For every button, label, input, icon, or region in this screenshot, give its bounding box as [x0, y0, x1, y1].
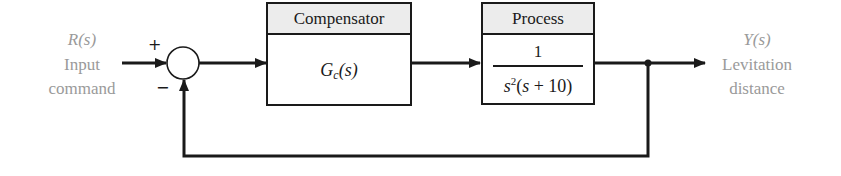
process-fraction: 1 s2(s + 10) [483, 39, 593, 100]
den-s: s [504, 76, 511, 96]
process-transfer-function: 1 s2(s + 10) [483, 35, 593, 103]
compensator-transfer-function: Gc(s) [268, 35, 410, 110]
process-numerator: 1 [483, 39, 593, 65]
input-symbol: R(s) [22, 28, 142, 53]
output-label-line1: Levitation [704, 53, 810, 78]
input-label-line2: command [22, 77, 142, 102]
minus-sign: − [156, 78, 169, 97]
output-label-line2: distance [704, 77, 810, 102]
output-symbol: Y(s) [704, 28, 810, 53]
compensator-tf-arg: (s) [339, 60, 358, 80]
compensator-header: Compensator [268, 4, 410, 35]
den-rest: + 10) [529, 76, 572, 96]
output-label: Y(s) Levitation distance [704, 28, 810, 102]
input-label-line1: Input [22, 53, 142, 78]
input-label: R(s) Input command [22, 28, 142, 102]
plus-sign: + [148, 35, 161, 54]
compensator-block: Compensator Gc(s) [266, 2, 412, 106]
summing-junction [167, 47, 199, 79]
process-header: Process [483, 4, 593, 35]
process-denominator: s2(s + 10) [483, 67, 593, 100]
compensator-tf-main: G [320, 60, 333, 80]
process-block: Process 1 s2(s + 10) [481, 2, 595, 105]
